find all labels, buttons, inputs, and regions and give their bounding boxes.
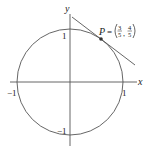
unit-circle-diagram: y x 1 −1 1 −1 P = 3 5 , 4 5 <box>0 0 150 148</box>
x-tick-neg1: −1 <box>7 88 17 98</box>
tangent-line <box>72 17 135 65</box>
point-name: P <box>98 26 105 37</box>
point-p-dot <box>99 37 103 41</box>
y-numerator: 4 <box>128 24 132 31</box>
x-numerator: 3 <box>118 24 121 31</box>
y-axis-label: y <box>64 3 70 14</box>
x-tick-1: 1 <box>122 88 127 98</box>
y-denominator: 5 <box>128 31 131 38</box>
x-denominator: 5 <box>118 31 121 38</box>
equals-sign: = <box>107 27 112 37</box>
y-tick-1: 1 <box>62 31 67 41</box>
right-paren <box>133 24 135 38</box>
x-axis-label: x <box>137 76 143 87</box>
comma: , <box>123 29 125 38</box>
y-tick-neg1: −1 <box>57 126 67 136</box>
left-paren <box>115 24 117 38</box>
point-p-label: P = 3 5 , 4 5 <box>98 24 135 38</box>
